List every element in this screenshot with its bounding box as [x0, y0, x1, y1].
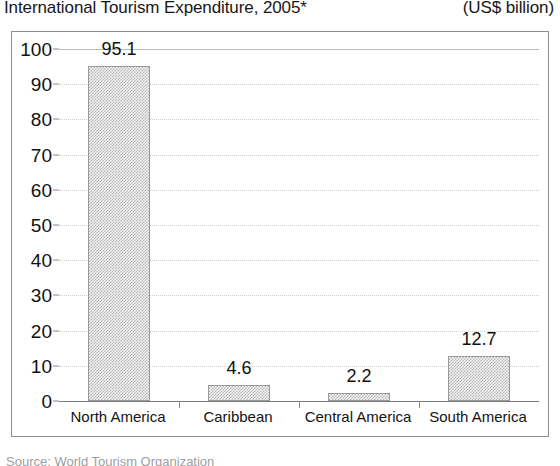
bar[interactable]	[208, 385, 270, 401]
bar-slot: 4.6	[179, 49, 299, 401]
bar[interactable]	[448, 356, 510, 401]
page-title: International Tourism Expenditure, 2005*	[4, 0, 307, 18]
x-axis-category-label: Central America	[305, 409, 412, 426]
bar[interactable]	[88, 66, 150, 401]
y-axis-tick-label: 20	[31, 321, 52, 340]
bar-series: 95.14.62.212.7	[59, 49, 539, 401]
x-axis-category-label: South America	[429, 409, 527, 426]
bar-value-label: 12.7	[461, 330, 496, 348]
chart-header: International Tourism Expenditure, 2005*…	[0, 0, 560, 24]
bar-value-label: 4.6	[226, 359, 251, 377]
y-axis-tick-label: 0	[41, 392, 52, 411]
unit-label: (US$ billion)	[463, 0, 554, 18]
plot-area: 1009080706050403020100 95.14.62.212.7	[59, 49, 539, 401]
y-axis-tick-label: 100	[20, 40, 52, 59]
y-axis-tick-label: 10	[31, 356, 52, 375]
bar-value-label: 2.2	[346, 367, 371, 385]
y-axis-tick-label: 90	[31, 75, 52, 94]
category-tick	[299, 401, 300, 408]
y-axis-tick-label: 40	[31, 251, 52, 270]
y-axis-tick-label: 50	[31, 216, 52, 235]
bar-slot: 2.2	[299, 49, 419, 401]
bar-slot: 12.7	[419, 49, 539, 401]
bar-value-label: 95.1	[101, 40, 136, 58]
x-axis-category-label: North America	[70, 409, 165, 426]
x-axis-category-label: Caribbean	[203, 409, 272, 426]
bar[interactable]	[328, 393, 390, 401]
category-axis: North AmericaCaribbeanCentral AmericaSou…	[58, 409, 538, 431]
y-axis-tick-label: 60	[31, 180, 52, 199]
y-axis-tick-label: 30	[31, 286, 52, 305]
category-tick	[419, 401, 420, 408]
chart-frame: 1009080706050403020100 95.14.62.212.7	[11, 31, 549, 437]
source-note: Source: World Tourism Organization	[6, 455, 526, 466]
category-tick	[179, 401, 180, 408]
bar-slot: 95.1	[59, 49, 179, 401]
y-axis-tick-label: 80	[31, 110, 52, 129]
y-axis-tick-label: 70	[31, 145, 52, 164]
